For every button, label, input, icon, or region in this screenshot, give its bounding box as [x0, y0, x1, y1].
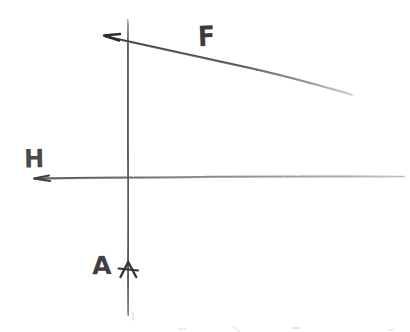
label-a: A: [92, 253, 112, 278]
sketch-canvas: F H A: [0, 0, 410, 332]
horizontal-axis: [35, 176, 405, 179]
label-f: F: [198, 22, 216, 51]
label-h: H: [24, 146, 45, 172]
page-bottom-artifacts: [133, 312, 394, 331]
vertical-axis: [128, 20, 129, 315]
sloped-line: [106, 37, 356, 96]
sloped-line-left-arrowhead: [104, 34, 120, 41]
